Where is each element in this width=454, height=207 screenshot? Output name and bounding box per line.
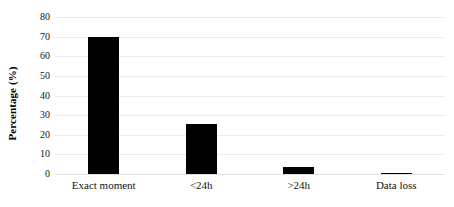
y-axis-tick-label: 80 (24, 12, 50, 22)
x-axis-tick-label: Exact moment (55, 179, 153, 192)
y-axis-tick-label: 10 (24, 149, 50, 159)
bar[interactable] (88, 37, 119, 174)
y-axis-tick-label: 0 (24, 169, 50, 179)
y-axis-tick-label: 40 (24, 91, 50, 101)
x-axis-tick-label: >24h (250, 179, 348, 192)
bar[interactable] (381, 173, 412, 175)
x-axis-tick-label: Data loss (348, 179, 446, 192)
bar[interactable] (186, 124, 217, 174)
plot-area (55, 17, 445, 174)
bar[interactable] (283, 167, 314, 174)
y-axis-tick-label: 50 (24, 71, 50, 81)
y-axis-tick-label: 20 (24, 130, 50, 140)
y-axis-tick-label: 70 (24, 32, 50, 42)
gridline (55, 174, 445, 175)
x-axis-tick-label: <24h (153, 179, 251, 192)
bar-chart: Percentage (%) 01020304050607080 Exact m… (0, 0, 454, 207)
y-axis-tick-label: 60 (24, 51, 50, 61)
gridline (55, 17, 445, 18)
y-axis-tick-label: 30 (24, 110, 50, 120)
